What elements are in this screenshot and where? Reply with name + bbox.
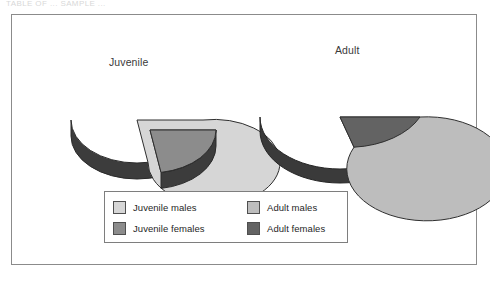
pie-chart-adult xyxy=(248,50,428,180)
legend-item-juvenile-males[interactable]: Juvenile males xyxy=(113,197,247,218)
legend-item-juvenile-females[interactable]: Juvenile females xyxy=(113,218,247,239)
legend-label-adult-males: Adult males xyxy=(267,202,317,213)
legend-item-adult-females[interactable]: Adult females xyxy=(247,218,341,239)
legend-swatch-juvenile-females xyxy=(113,222,126,235)
legend-swatch-adult-females xyxy=(247,222,260,235)
figure-stage: TABLE OF ... SAMPLE ... Juvenile Adult xyxy=(0,0,490,282)
legend-grid: Juvenile males Adult males Juvenile fema… xyxy=(113,197,341,239)
legend-swatch-juvenile-males xyxy=(113,201,126,214)
pie-chart-juvenile xyxy=(60,62,230,187)
cut-off-caption: TABLE OF ... SAMPLE ... xyxy=(6,0,306,7)
legend-item-adult-males[interactable]: Adult males xyxy=(247,197,341,218)
legend-label-juvenile-males: Juvenile males xyxy=(133,202,197,213)
legend-label-juvenile-females: Juvenile females xyxy=(133,223,205,234)
legend-label-adult-females: Adult females xyxy=(267,223,325,234)
chart-legend: Juvenile males Adult males Juvenile fema… xyxy=(104,191,348,243)
legend-swatch-adult-males xyxy=(247,201,260,214)
